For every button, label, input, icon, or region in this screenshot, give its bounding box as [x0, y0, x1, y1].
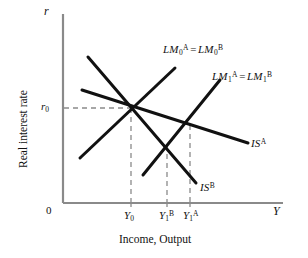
curve-is-a — [82, 90, 248, 143]
x-tick-label-y0: Y0 — [124, 210, 134, 223]
is-lm-figure: r Y 0 r0 Y0 Y1B Y1A LM0A=LM0B LM1A=LM1B … — [0, 0, 308, 258]
isb-sup: B — [210, 181, 215, 190]
lm1-left-base: LM — [212, 70, 228, 82]
y-axis-variable-label: r — [44, 5, 49, 17]
lm0-left-base: LM — [163, 43, 179, 55]
curve-lm-1 — [143, 80, 220, 175]
lm0-right-base: LM — [198, 43, 214, 55]
x-axis-variable-label: Y — [273, 205, 280, 217]
curve-lm-0 — [80, 68, 175, 158]
curve-label-is-a: ISA — [251, 138, 266, 149]
y-tick-label-r0: r0 — [41, 101, 49, 114]
x-tick-sup: A — [193, 209, 198, 218]
x-tick-label-y1a: Y1A — [183, 210, 198, 223]
lm1-right-sup: B — [267, 70, 272, 79]
x-tick-label-y1b: Y1B — [159, 210, 174, 223]
lm1-left-sup: A — [232, 70, 238, 79]
x-tick-sub: 0 — [130, 214, 134, 223]
plot-canvas — [0, 0, 308, 258]
lm0-equals: = — [189, 43, 198, 55]
y-tick-sub: 0 — [45, 105, 49, 114]
isa-base: IS — [251, 137, 261, 149]
isb-base: IS — [200, 181, 210, 193]
x-axis-title: Income, Output — [119, 234, 191, 246]
lm0-left-sup: A — [183, 43, 189, 52]
lm0-right-sup: B — [218, 43, 223, 52]
curve-label-is-b: ISB — [200, 182, 215, 193]
x-tick-sup: B — [169, 209, 174, 218]
lm1-equals: = — [238, 70, 247, 82]
curve-label-lm1: LM1A=LM1B — [212, 71, 272, 84]
lm1-right-base: LM — [247, 70, 263, 82]
y-axis-title: Real interest rate — [18, 90, 30, 168]
curve-label-lm0: LM0A=LM0B — [163, 44, 223, 57]
origin-label: 0 — [46, 205, 52, 216]
isa-sup: A — [261, 137, 267, 146]
